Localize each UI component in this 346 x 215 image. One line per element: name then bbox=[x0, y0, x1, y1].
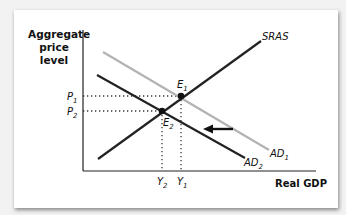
ad1-label: AD1 bbox=[269, 148, 289, 162]
e1-point bbox=[178, 93, 185, 100]
arrow-left-icon bbox=[203, 125, 213, 134]
p2-label: P2 bbox=[67, 106, 78, 120]
ad2-label: AD2 bbox=[243, 157, 264, 171]
sras-curve bbox=[98, 41, 261, 159]
x-axis-label: Real GDP bbox=[275, 178, 327, 189]
e2-point bbox=[159, 108, 166, 115]
p1-label: P1 bbox=[67, 91, 78, 105]
e2-label: E2 bbox=[163, 117, 174, 131]
ad1-curve bbox=[103, 52, 269, 150]
ad-sras-diagram: SRAS AD1 AD2 E1 E2 P1 P2 Y2 Y1 Real GDP bbox=[0, 0, 346, 215]
y2-label: Y2 bbox=[157, 176, 168, 190]
ad2-curve bbox=[97, 75, 245, 158]
e1-label: E1 bbox=[177, 79, 188, 93]
sras-label: SRAS bbox=[262, 31, 289, 42]
y1-label: Y1 bbox=[177, 176, 188, 190]
